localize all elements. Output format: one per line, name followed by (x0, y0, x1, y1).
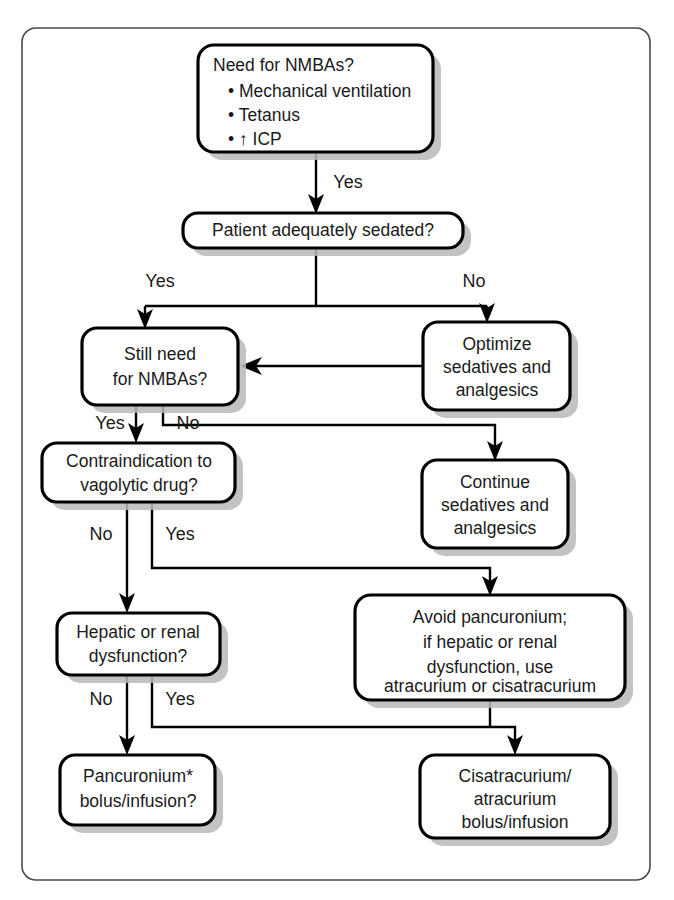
edge-label-sedated-no: No (462, 271, 485, 291)
node-hepatic-renal[interactable]: Hepatic or renal dysfunction? (57, 613, 228, 683)
edge-label-hepatic-yes: Yes (165, 689, 194, 709)
node-optimize-sedatives-line-1: sedatives and (443, 357, 551, 377)
edge-label-sedated-yes: Yes (145, 271, 174, 291)
node-contraindication[interactable]: Contraindication to vagolytic drug? (42, 443, 243, 510)
node-still-need-nmbas-line-1: for NMBAs? (113, 369, 208, 389)
edge-label-hepatic-no: No (89, 689, 112, 709)
node-continue-sedatives[interactable]: Continue sedatives and analgesics (422, 460, 576, 556)
flowchart-stage: Yes Yes No Yes No No Yes No Yes Need for… (0, 0, 674, 900)
node-cisatracurium-line-2: bolus/infusion (461, 812, 568, 832)
node-continue-sedatives-line-1: sedatives and (441, 495, 549, 515)
node-pancuronium-line-1: bolus/infusion? (80, 791, 197, 811)
edge-label-still-need-yes: Yes (95, 413, 124, 433)
node-cisatracurium[interactable]: Cisatracurium/ atracurium bolus/infusion (420, 755, 618, 846)
node-continue-sedatives-line-0: Continue (460, 472, 530, 492)
node-need-nmbas[interactable]: Need for NMBAs? • Mechanical ventilation… (198, 45, 441, 160)
node-optimize-sedatives[interactable]: Optimize sedatives and analgesics (423, 322, 578, 418)
node-pancuronium-line-0: Pancuronium* (83, 766, 193, 786)
node-need-nmbas-bullet-0: • Mechanical ventilation (228, 81, 411, 101)
node-optimize-sedatives-line-0: Optimize (462, 334, 531, 354)
node-cisatracurium-line-1: atracurium (474, 789, 557, 809)
node-continue-sedatives-line-2: analgesics (454, 518, 537, 538)
node-still-need-nmbas-line-0: Still need (124, 344, 196, 364)
node-avoid-pancuronium[interactable]: Avoid pancuronium; if hepatic or renal d… (355, 595, 633, 708)
node-still-need-nmbas-box[interactable] (82, 328, 238, 405)
node-patient-sedated[interactable]: Patient adequately sedated? (183, 213, 471, 256)
flowchart-svg: Yes Yes No Yes No No Yes No Yes Need for… (0, 0, 674, 900)
node-contraindication-line-1: vagolytic drug? (80, 475, 198, 495)
node-contraindication-line-0: Contraindication to (66, 451, 212, 471)
node-cisatracurium-line-0: Cisatracurium/ (459, 766, 572, 786)
node-pancuronium[interactable]: Pancuronium* bolus/infusion? (60, 755, 223, 833)
node-avoid-pancuronium-line-0: Avoid pancuronium; (413, 607, 567, 627)
node-optimize-sedatives-line-2: analgesics (456, 380, 539, 400)
node-still-need-nmbas[interactable]: Still need for NMBAs? (82, 328, 246, 413)
node-hepatic-renal-line-0: Hepatic or renal (76, 622, 200, 642)
edge-label-contraindication-yes: Yes (165, 524, 194, 544)
node-need-nmbas-bullet-1: • Tetanus (228, 105, 300, 125)
edge-label-still-need-no: No (176, 413, 199, 433)
node-avoid-pancuronium-line-1: if hepatic or renal (423, 632, 557, 652)
node-patient-sedated-label: Patient adequately sedated? (212, 220, 434, 240)
edge-label-need-to-sedated: Yes (333, 172, 362, 192)
node-need-nmbas-bullet-2: • ↑ ICP (228, 129, 282, 149)
node-need-nmbas-heading: Need for NMBAs? (213, 55, 354, 75)
node-avoid-pancuronium-line-2: dysfunction, use (427, 657, 553, 677)
node-hepatic-renal-line-1: dysfunction? (89, 646, 188, 666)
edge-label-contraindication-no: No (89, 524, 112, 544)
node-avoid-pancuronium-line-3: atracurium or cisatracurium (384, 676, 596, 696)
